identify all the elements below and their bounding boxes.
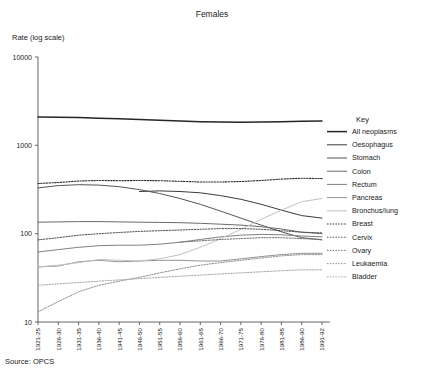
- series-line-9: [38, 229, 322, 240]
- y-axis-tick-label: 100: [20, 230, 32, 237]
- legend-label-12: Bladder: [352, 272, 377, 281]
- x-axis-tick-label: 1981-85: [278, 327, 285, 350]
- x-axis-tick-label: 1941-45: [116, 327, 123, 350]
- legend-label-7: Bronchus/lung: [352, 206, 398, 215]
- legend-label-4: Colon: [352, 167, 371, 176]
- x-axis-tick-label: 1986-90: [298, 327, 305, 350]
- series-line-12: [38, 270, 322, 286]
- x-axis-tick-label: 1951-55: [156, 327, 163, 350]
- y-axis-tick-label: 1000: [16, 142, 32, 149]
- x-axis-tick-label: 1956-60: [176, 327, 183, 350]
- series-line-7: [38, 199, 322, 267]
- legend-label-11: Leukaemia: [352, 259, 387, 268]
- series-line-8: [38, 178, 322, 183]
- legend-label-3: Stomach: [352, 153, 380, 162]
- x-axis-tick-label: 1971-75: [237, 327, 244, 350]
- x-axis-tick-label: 1921-25: [34, 327, 41, 350]
- x-axis-tick-label: 1976-80: [258, 327, 265, 350]
- legend-label-6: Pancreas: [352, 193, 383, 202]
- x-axis-tick-label: 1931-35: [75, 327, 82, 350]
- chart-axes: [38, 57, 330, 322]
- series-line-6: [38, 253, 322, 267]
- y-axis-tick-label: 10000: [13, 54, 33, 61]
- line-chart-plot: 100001000100101921-251926-301931-351936-…: [0, 0, 424, 374]
- series-line-3: [38, 185, 322, 240]
- x-axis-tick-label: 1936-40: [95, 327, 102, 350]
- y-axis-tick-label: 10: [24, 319, 32, 326]
- x-axis-tick-label: 1961-65: [197, 327, 204, 350]
- x-axis-tick-label: 1946-50: [136, 327, 143, 350]
- legend-title: Key: [356, 115, 369, 124]
- legend-label-1: All neoplasms: [352, 127, 397, 136]
- legend-label-2: Oesophagus: [352, 140, 393, 149]
- chart-figure: Females Rate (log scale) Source: OPCS 10…: [0, 0, 424, 374]
- legend-label-5: Rectum: [352, 180, 377, 189]
- series-line-1: [38, 117, 322, 122]
- x-axis-tick-label: 1991-92: [318, 327, 325, 350]
- x-axis-tick-label: 1966-70: [217, 327, 224, 350]
- series-line-4: [38, 222, 322, 234]
- legend-label-9: Cervix: [352, 233, 373, 242]
- legend-label-10: Ovary: [352, 246, 372, 255]
- x-axis-tick-label: 1926-30: [55, 327, 62, 350]
- series-line-5: [38, 234, 322, 252]
- legend-label-8: Breast: [352, 219, 373, 228]
- series-line-11: [38, 255, 322, 312]
- series-line-10: [180, 238, 322, 243]
